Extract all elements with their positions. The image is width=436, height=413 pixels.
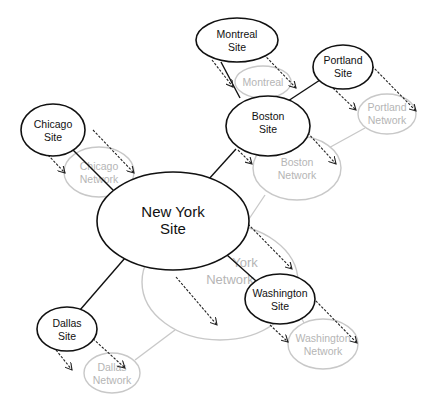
svg-text:Portland: Portland xyxy=(367,101,406,113)
site-label: Site xyxy=(334,67,352,79)
site-network-diagram: York Network Montreal Portland Network B… xyxy=(0,0,436,413)
site-label: Washington xyxy=(252,287,307,299)
svg-text:Portland: Portland xyxy=(323,54,362,66)
svg-text:Site: Site xyxy=(228,41,246,53)
svg-text:Network: Network xyxy=(304,345,343,357)
site-label: Portland xyxy=(323,54,362,66)
network-label: Network xyxy=(80,173,119,185)
network-node-montreal[interactable]: Montreal xyxy=(235,66,291,98)
svg-text:Network: Network xyxy=(278,169,317,181)
network-node-dallas[interactable]: Dallas Network xyxy=(84,353,140,393)
network-label: Network xyxy=(304,345,343,357)
svg-text:Dallas: Dallas xyxy=(52,317,81,329)
svg-text:Site: Site xyxy=(58,330,76,342)
site-label: Chicago xyxy=(34,118,73,130)
svg-text:Dallas: Dallas xyxy=(97,361,126,373)
site-label: Site xyxy=(58,330,76,342)
site-label: Site xyxy=(271,300,289,312)
svg-text:Site: Site xyxy=(259,123,277,135)
site-node-boston[interactable]: Boston Site xyxy=(226,96,310,156)
site-label: Site xyxy=(44,131,62,143)
site-node-washington[interactable]: Washington Site xyxy=(245,274,315,324)
svg-text:Boston: Boston xyxy=(281,156,314,168)
network-label: Portland xyxy=(367,101,406,113)
svg-text:Site: Site xyxy=(160,220,186,237)
svg-text:Site: Site xyxy=(334,67,352,79)
site-node-dallas[interactable]: Dallas Site xyxy=(37,307,97,351)
site-label: Dallas xyxy=(52,317,81,329)
network-label: Network xyxy=(278,169,317,181)
site-label: New York xyxy=(141,203,205,220)
svg-text:Washington: Washington xyxy=(295,332,350,344)
network-label: Network xyxy=(368,114,407,126)
svg-text:Site: Site xyxy=(44,131,62,143)
network-label: Network xyxy=(206,272,254,287)
svg-text:Network: Network xyxy=(80,173,119,185)
network-label: Washington xyxy=(295,332,350,344)
svg-text:Network: Network xyxy=(93,374,132,386)
site-node-montreal[interactable]: Montreal Site xyxy=(196,18,278,62)
network-label: Montreal xyxy=(243,76,284,88)
site-label: Site xyxy=(259,123,277,135)
network-node-washington[interactable]: Washington Network xyxy=(288,319,358,369)
site-node-chicago[interactable]: Chicago Site xyxy=(21,104,85,156)
svg-text:Site: Site xyxy=(271,300,289,312)
svg-text:Chicago: Chicago xyxy=(34,118,73,130)
site-label: Boston xyxy=(252,110,285,122)
network-node-portland[interactable]: Portland Network xyxy=(358,94,416,134)
svg-text:Montreal: Montreal xyxy=(217,28,258,40)
site-label: Montreal xyxy=(217,28,258,40)
svg-text:Washington: Washington xyxy=(252,287,307,299)
network-label: Network xyxy=(93,374,132,386)
svg-text:New York: New York xyxy=(141,203,205,220)
svg-text:Network: Network xyxy=(206,272,254,287)
site-node-newyork[interactable]: New York Site xyxy=(97,172,249,270)
svg-text:Montreal: Montreal xyxy=(243,76,284,88)
site-label: Site xyxy=(160,220,186,237)
svg-text:Boston: Boston xyxy=(252,110,285,122)
network-label: Boston xyxy=(281,156,314,168)
site-label: Site xyxy=(228,41,246,53)
network-label: Dallas xyxy=(97,361,126,373)
site-node-portland[interactable]: Portland Site xyxy=(313,45,373,89)
svg-text:Network: Network xyxy=(368,114,407,126)
